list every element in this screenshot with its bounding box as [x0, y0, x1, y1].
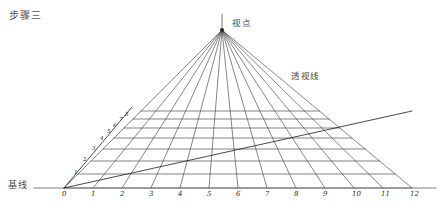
orthogonal-line-12 [222, 30, 412, 188]
perspective-lines-label: 透视线 [291, 72, 320, 81]
vanishing-point-label: 视点 [232, 19, 251, 28]
perspective-grid-svg [0, 0, 441, 214]
orthogonal-line-7 [222, 30, 267, 188]
diagonal-division-5: 5 [107, 128, 111, 134]
page-title: 步骤三 [9, 11, 42, 21]
baseline-tick-4: 4 [178, 190, 182, 198]
baseline-tick-0: 0 [62, 190, 66, 198]
diagonal-division-6: 6 [113, 122, 117, 128]
baseline-tick-12: 12 [410, 190, 419, 198]
baseline-tick-6: 6 [236, 190, 240, 198]
diagram-canvas: 步骤三 视点 透视线 基线 0123456789101112 12345678 [0, 0, 441, 214]
baseline-tick-1: 1 [91, 190, 95, 198]
diagonal-division-8: 8 [125, 111, 129, 117]
orthogonal-line-1 [93, 30, 222, 188]
baseline-tick-9: 9 [323, 190, 327, 198]
diagonal-division-7: 7 [119, 116, 123, 122]
diagonal-division-2: 2 [83, 156, 87, 162]
diagonal-division-4: 4 [100, 135, 104, 141]
baseline-tick-2: 2 [120, 190, 124, 198]
orthogonal-line-8 [222, 30, 296, 188]
baseline-tick-11: 11 [381, 190, 390, 198]
baseline-label: 基线 [8, 181, 27, 190]
baseline-tick-8: 8 [294, 190, 298, 198]
baseline-tick-10: 10 [352, 190, 361, 198]
vanishing-point-dot [220, 28, 224, 32]
orthogonal-line-11 [222, 30, 383, 188]
diagonal-division-1: 1 [74, 169, 78, 175]
baseline-tick-5: 5 [207, 190, 211, 198]
baseline-tick-7: 7 [265, 190, 269, 198]
orthogonal-line-10 [222, 30, 354, 188]
orthogonal-line-9 [222, 30, 325, 188]
baseline-tick-3: 3 [149, 190, 153, 198]
orthogonal-line-0 [64, 30, 222, 188]
orthogonal-lines-group [64, 30, 412, 188]
vanishing-point-marker [220, 28, 224, 32]
diagonal-division-3: 3 [92, 145, 96, 151]
orthogonal-line-6 [222, 30, 238, 188]
